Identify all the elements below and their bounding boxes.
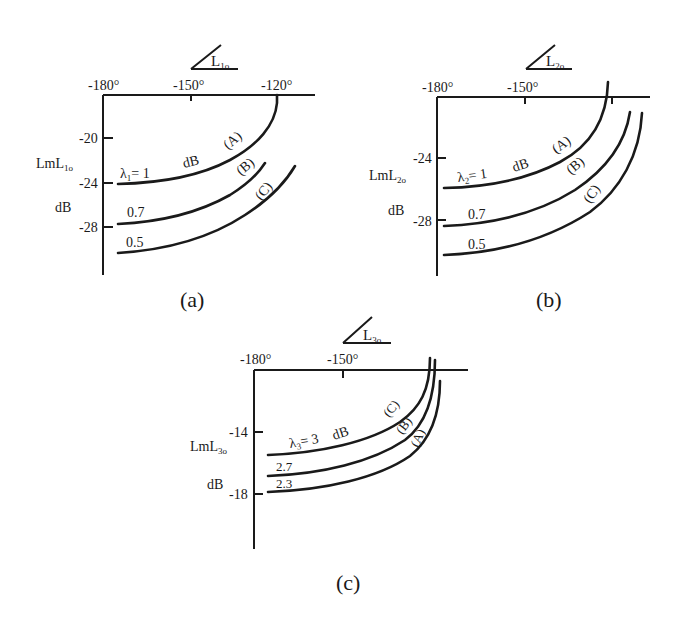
db-label: dB [181,152,200,171]
y-axis-label: LmL2o [369,168,407,185]
lambda-c-label: 0.5 [126,235,144,250]
curve-b [268,360,435,476]
x-tick-label: -180° [88,78,119,93]
curve-c [444,113,642,255]
angle-label: L1o [211,53,230,71]
panel-caption: (a) [180,287,204,312]
x-tick-label: -180° [240,352,271,367]
y-tick-label: -18 [229,487,248,502]
panel-caption: (b) [536,287,562,312]
lambda-b-label: 0.7 [468,207,486,222]
lambda-b-label: 0.7 [127,205,145,220]
curve-label-a: (A) [407,427,428,450]
y-tick-label: -14 [229,425,248,440]
x-tick-label: -180° [422,80,453,95]
db-label: dB [330,424,350,443]
db-label: dB [510,156,530,175]
panel-caption: (c) [336,570,360,595]
y-tick-label: -24 [79,176,98,191]
x-tick-label: -120° [261,78,292,93]
angle-label: L2o [546,53,565,71]
y-ticks [254,432,263,494]
x-ticks [525,97,612,104]
angle-label: L3o [363,327,382,345]
y-tick-label: -28 [413,214,432,229]
y-ticks [103,138,113,227]
curve-label-c: (C) [252,179,276,204]
curve-label-a: (A) [220,128,245,153]
lambda-c-label: 2.3 [276,476,292,491]
y-tick-label: -28 [79,220,98,235]
y-axis-unit: dB [207,477,223,492]
curve-label-c: (C) [380,397,403,420]
y-tick-label: -20 [79,131,98,146]
x-tick-label: -150° [173,78,204,93]
lambda-c-label: 0.5 [468,237,486,252]
x-tick-label: -150° [327,352,358,367]
curve-label-a: (A) [549,133,574,157]
panel-b: L2o -180° -150° -24 -28 LmL2o dB λ2= 1 d… [369,45,650,312]
y-axis-label: LmL1o [36,156,74,173]
y-tick-label: -24 [413,151,432,166]
lambda-label: λ1= 1 [120,166,150,183]
lambda-b-label: 2.7 [276,459,293,474]
panel-a: L1o -180° -150° -120° -20 -24 -28 LmL1o … [36,45,315,312]
panel-c: L3o -180° -150° -14 -18 LmL3o dB λ3= 3 d… [190,317,468,595]
y-axis-label: LmL3o [190,439,228,456]
y-axis-unit: dB [55,200,71,215]
figure-canvas: L1o -180° -150° -120° -20 -24 -28 LmL1o … [0,0,675,632]
x-tick-label: -150° [507,80,538,95]
y-axis-unit: dB [388,203,404,218]
